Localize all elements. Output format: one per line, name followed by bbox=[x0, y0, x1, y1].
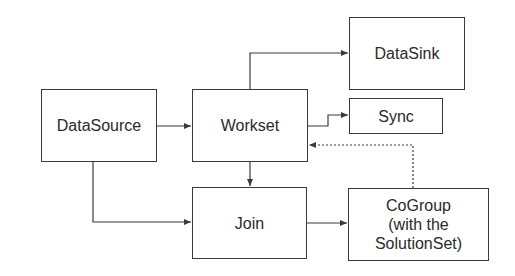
node-sync: Sync bbox=[349, 98, 443, 134]
node-datasource-label: DataSource bbox=[57, 116, 142, 135]
node-datasink: DataSink bbox=[349, 17, 465, 90]
edge-workset-sync bbox=[308, 115, 348, 126]
node-workset-label: Workset bbox=[221, 116, 279, 135]
edge-cogroup-workset-dashed bbox=[309, 145, 413, 188]
node-join-label: Join bbox=[235, 214, 264, 233]
node-cogroup-label-line-3: SolutionSet) bbox=[375, 234, 462, 253]
edge-datasource-join bbox=[93, 162, 191, 222]
edge-workset-datasink bbox=[250, 53, 348, 89]
node-sync-label: Sync bbox=[378, 107, 414, 126]
node-cogroup-label-line-2: (with the bbox=[388, 215, 448, 234]
node-datasink-label: DataSink bbox=[375, 44, 440, 63]
node-workset: Workset bbox=[192, 89, 308, 162]
node-datasource: DataSource bbox=[41, 89, 157, 162]
node-cogroup: CoGroup (with the SolutionSet) bbox=[348, 188, 489, 261]
node-cogroup-label-line-1: CoGroup bbox=[386, 196, 451, 215]
node-join: Join bbox=[192, 187, 307, 259]
